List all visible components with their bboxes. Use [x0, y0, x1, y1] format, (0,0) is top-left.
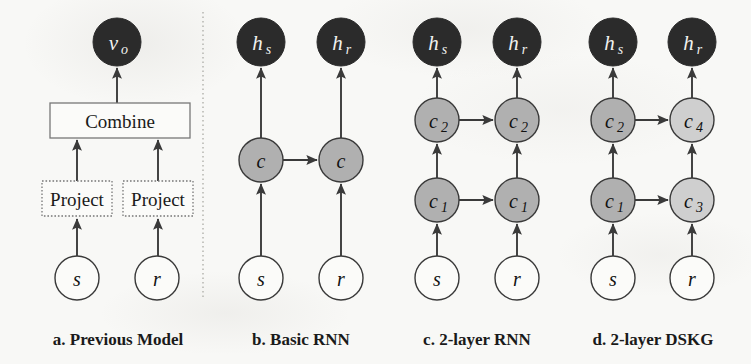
node-vo-subscript: o — [121, 42, 128, 57]
box-project-s[interactable]: Project — [42, 181, 112, 216]
node-r[interactable]: r — [319, 256, 363, 300]
node-s-label: s — [609, 268, 617, 290]
panel-a-caption: a. Previous Model — [53, 330, 184, 349]
node-hr-label: h — [508, 31, 519, 55]
node-c3-label: c — [684, 190, 693, 212]
node-c4[interactable]: c4 — [670, 98, 714, 142]
node-vo[interactable]: vo — [93, 18, 141, 66]
node-c1-subscript: 1 — [617, 200, 624, 215]
node-c-r[interactable]: c — [319, 138, 363, 182]
node-c1-r-subscript: 1 — [521, 200, 528, 215]
node-s[interactable]: s — [415, 256, 459, 300]
node-hr-subscript: r — [522, 42, 528, 57]
node-r[interactable]: r — [670, 256, 714, 300]
node-c2-s[interactable]: c2 — [415, 98, 459, 142]
node-s[interactable]: s — [239, 256, 283, 300]
node-c-s-label: c — [257, 150, 266, 172]
node-hs[interactable]: hs — [237, 18, 285, 66]
box-combine[interactable]: Combine — [50, 103, 190, 138]
node-c1-r[interactable]: c1 — [495, 178, 539, 222]
node-hr[interactable]: hr — [493, 18, 541, 66]
panel-d-caption: d. 2-layer DSKG — [592, 330, 713, 349]
node-hs-subscript: s — [442, 42, 448, 57]
box-combine-label: Combine — [85, 111, 155, 132]
node-r[interactable]: r — [135, 256, 179, 300]
box-project-r-label: Project — [131, 189, 186, 210]
node-r-label: r — [337, 268, 345, 290]
node-hs-subscript: s — [266, 42, 272, 57]
node-c1-s[interactable]: c1 — [415, 178, 459, 222]
node-hr[interactable]: hr — [317, 18, 365, 66]
node-hs-label: h — [604, 31, 615, 55]
node-s[interactable]: s — [55, 256, 99, 300]
node-hs-label: h — [428, 31, 439, 55]
node-hr-label: h — [683, 31, 694, 55]
node-hs[interactable]: hs — [413, 18, 461, 66]
panel-d: hshrc2c4c1c3srd. 2-layer DSKG — [589, 18, 716, 349]
node-r-label: r — [688, 268, 696, 290]
node-c1-r-label: c — [509, 190, 518, 212]
node-s-label: s — [257, 268, 265, 290]
node-c-r-label: c — [337, 150, 346, 172]
node-c3[interactable]: c3 — [670, 178, 714, 222]
panel-b: hshrccsrb. Basic RNN — [237, 18, 365, 349]
node-c4-subscript: 4 — [696, 120, 703, 135]
node-hr-subscript: r — [697, 42, 703, 57]
node-c1[interactable]: c1 — [591, 178, 635, 222]
node-hs-subscript: s — [618, 42, 624, 57]
node-vo-label: v — [109, 31, 119, 55]
node-hs-label: h — [252, 31, 263, 55]
node-s[interactable]: s — [591, 256, 635, 300]
node-c-s[interactable]: c — [239, 138, 283, 182]
box-project-s-label: Project — [50, 189, 105, 210]
node-c2-s-label: c — [429, 110, 438, 132]
node-c2-subscript: 2 — [617, 120, 624, 135]
node-s-label: s — [433, 268, 441, 290]
node-c1-s-label: c — [429, 190, 438, 212]
node-c2-s-subscript: 2 — [441, 120, 448, 135]
node-hr[interactable]: hr — [668, 18, 716, 66]
node-c1-s-subscript: 1 — [441, 200, 448, 215]
node-c3-subscript: 3 — [695, 200, 703, 215]
node-c2-r-label: c — [509, 110, 518, 132]
node-c2-r[interactable]: c2 — [495, 98, 539, 142]
node-r-label: r — [153, 268, 161, 290]
panel-c: hshrc2c2c1c1src. 2-layer RNN — [413, 18, 541, 349]
node-c4-label: c — [684, 110, 693, 132]
model-architecture-diagram: CombineProjectProjectvosra. Previous Mod… — [0, 0, 751, 364]
node-hr-label: h — [332, 31, 343, 55]
node-c1-label: c — [605, 190, 614, 212]
node-s-label: s — [73, 268, 81, 290]
node-c2-r-subscript: 2 — [521, 120, 528, 135]
node-r-label: r — [513, 268, 521, 290]
panels-root: CombineProjectProjectvosra. Previous Mod… — [42, 18, 716, 349]
panel-c-caption: c. 2-layer RNN — [423, 330, 532, 349]
panel-a: CombineProjectProjectvosra. Previous Mod… — [42, 18, 193, 349]
figure-container: CombineProjectProjectvosra. Previous Mod… — [0, 0, 751, 364]
panel-b-caption: b. Basic RNN — [252, 330, 350, 349]
node-hs[interactable]: hs — [589, 18, 637, 66]
node-r[interactable]: r — [495, 256, 539, 300]
box-project-r[interactable]: Project — [123, 181, 193, 216]
node-c2[interactable]: c2 — [591, 98, 635, 142]
node-hr-subscript: r — [346, 42, 352, 57]
node-c2-label: c — [605, 110, 614, 132]
